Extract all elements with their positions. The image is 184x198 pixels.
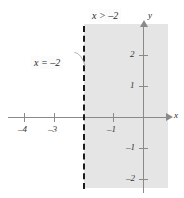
y-axis-label: y [148,10,152,20]
x-tick-minus3 [54,113,55,122]
y-tick-label-1: 1 [130,80,135,90]
y-tick-label-2: 2 [130,49,135,59]
y-tick-label-minus2: –2 [126,173,135,183]
boundary-dashed-line [83,26,85,189]
x-axis [8,117,168,118]
x-tick-label-minus1: –1 [107,124,116,134]
x-tick-label-minus4: –4 [18,124,27,134]
shaded-solution-region [84,24,168,188]
leader-line [74,52,86,67]
boundary-equation-label: x = –2 [31,56,63,69]
y-tick-1 [139,86,148,87]
x-tick-label-minus3: –3 [48,124,57,134]
x-axis-arrow-icon [166,113,173,121]
y-tick-minus2 [139,179,148,180]
inequality-label: x > –2 [89,9,121,22]
x-tick-minus1 [113,113,114,122]
x-axis-label: x [174,110,178,120]
x-tick-minus4 [24,113,25,122]
y-tick-label-minus1: –1 [126,142,135,152]
y-axis [143,25,144,193]
y-axis-arrow-icon [140,20,148,27]
y-tick-minus1 [139,148,148,149]
y-tick-2 [139,55,148,56]
inequality-graph-figure: –4 –3 –1 2 1 –1 –2 x > –2 x = –2 y x [0,0,184,198]
